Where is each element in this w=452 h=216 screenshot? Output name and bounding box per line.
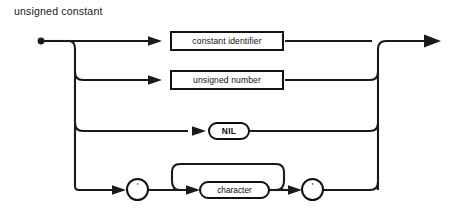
terminal-close-quote-label: ' xyxy=(312,182,314,190)
branch-line-nil xyxy=(75,123,188,131)
start-dot-marker xyxy=(38,38,45,45)
arrowhead-output xyxy=(424,35,441,48)
arrowhead-unsigned-number xyxy=(148,75,162,85)
left-branch-rail xyxy=(69,41,79,190)
right-collector-rail xyxy=(378,41,424,190)
arrowhead-close-quote xyxy=(288,185,302,195)
terminal-open-quote[interactable]: ' xyxy=(126,178,149,201)
arrowhead-open-quote xyxy=(112,185,126,195)
exit-line-unsigned-number xyxy=(285,72,378,80)
nonterminal-unsigned-number-label: unsigned number xyxy=(193,76,261,85)
terminal-nil-label: NIL xyxy=(222,127,236,135)
exit-line-nil xyxy=(250,123,378,131)
nonterminal-character[interactable]: character xyxy=(199,181,270,199)
branch-line-unsigned-number xyxy=(75,72,148,80)
nonterminal-constant-identifier-label: constant identifier xyxy=(192,37,261,46)
terminal-close-quote[interactable]: ' xyxy=(301,178,324,201)
nonterminal-unsigned-number[interactable]: unsigned number xyxy=(170,70,284,90)
arrowhead-nil xyxy=(192,126,206,136)
exit-line-character-string xyxy=(323,182,378,190)
terminal-open-quote-label: ' xyxy=(137,182,139,190)
arrowhead-character xyxy=(186,185,200,195)
nonterminal-character-label: character xyxy=(217,186,252,194)
terminal-nil[interactable]: NIL xyxy=(208,122,250,140)
arrowhead-constant-identifier xyxy=(148,36,162,46)
nonterminal-constant-identifier[interactable]: constant identifier xyxy=(170,31,284,51)
syntax-diagram: unsigned constant xyxy=(0,0,452,216)
